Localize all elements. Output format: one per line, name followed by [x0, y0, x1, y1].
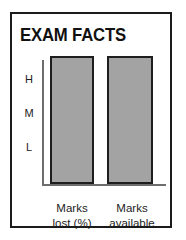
- y-axis-tick-high: H: [20, 74, 38, 85]
- bar-label-marks-lost: Marks lost (%): [38, 201, 106, 230]
- bar-label-marks-available-line1: Marks: [98, 201, 166, 215]
- bar-marks-available: [107, 56, 153, 184]
- y-axis-line: [42, 60, 44, 184]
- bar-label-marks-available: Marks available: [98, 201, 166, 230]
- y-axis-tick-low: L: [20, 142, 38, 153]
- page-title: EXAM FACTS: [20, 25, 126, 44]
- bar-chart: H M L Marks lost (%) Marks available: [20, 58, 166, 234]
- bar-label-marks-lost-line1: Marks: [38, 201, 106, 215]
- bar-label-marks-available-line2: available: [98, 216, 166, 230]
- bar-label-marks-lost-line2: lost (%): [38, 216, 106, 230]
- bar-marks-lost: [50, 56, 94, 184]
- exam-facts-panel: EXAM FACTS H M L Marks lost (%) Marks av…: [10, 12, 172, 228]
- y-axis-tick-medium: M: [20, 108, 38, 119]
- x-axis-line: [42, 184, 166, 186]
